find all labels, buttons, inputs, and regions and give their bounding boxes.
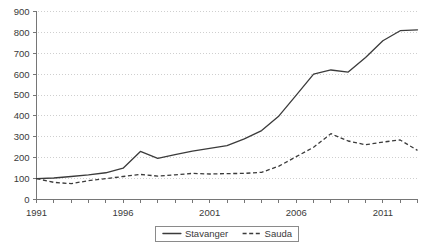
series-line-sauda bbox=[37, 134, 418, 184]
x-axis: 19911996200120062011 bbox=[26, 200, 418, 218]
y-axis: 0100200300400500600700800900 bbox=[14, 6, 37, 205]
y-tick-label-500: 500 bbox=[14, 89, 30, 100]
y-tick-label-400: 400 bbox=[14, 110, 30, 121]
y-tick-label-800: 800 bbox=[14, 27, 30, 38]
x-tick-label-2011: 2011 bbox=[373, 207, 393, 218]
y-tick-label-900: 900 bbox=[14, 6, 30, 17]
x-tick-label-2001: 2001 bbox=[199, 207, 220, 218]
x-tick-label-1996: 1996 bbox=[113, 207, 134, 218]
chart-canvas: 0100200300400500600700800900 19911996200… bbox=[0, 0, 427, 251]
legend-label-sauda: Sauda bbox=[265, 228, 293, 239]
y-tick-label-200: 200 bbox=[14, 152, 30, 163]
series-line-stavanger bbox=[37, 30, 418, 179]
x-tick-label-1991: 1991 bbox=[26, 207, 47, 218]
legend-label-stavanger: Stavanger bbox=[185, 228, 228, 239]
line-chart: 0100200300400500600700800900 19911996200… bbox=[0, 0, 427, 251]
x-tick-label-2006: 2006 bbox=[286, 207, 307, 218]
y-tick-label-0: 0 bbox=[24, 194, 29, 205]
gridlines bbox=[38, 12, 418, 179]
chart-legend: StavangerSauda bbox=[156, 226, 298, 241]
y-tick-label-100: 100 bbox=[14, 173, 30, 184]
y-tick-label-300: 300 bbox=[14, 131, 30, 142]
y-tick-label-700: 700 bbox=[14, 48, 30, 59]
y-tick-label-600: 600 bbox=[14, 69, 30, 80]
